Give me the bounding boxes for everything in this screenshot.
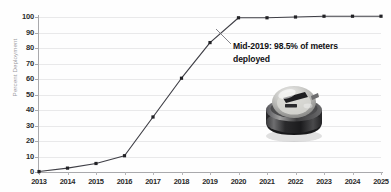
data-point-marker (265, 16, 268, 19)
electric-utility-meter-photo (256, 79, 332, 145)
data-point-marker (37, 170, 40, 173)
chart-container: Percent Deployment 010203040506070809010… (0, 0, 391, 192)
meter-glass-highlight-secondary (304, 104, 313, 109)
data-point-marker (123, 154, 126, 157)
data-point-marker (294, 15, 297, 18)
data-point-marker (151, 115, 154, 118)
data-point-marker (322, 15, 325, 18)
annotation-line-1: Mid-2019: 98.5% of meters (233, 40, 385, 53)
annotation-line-2: deployed (233, 53, 385, 66)
data-point-marker (94, 162, 97, 165)
data-point-marker (379, 15, 382, 18)
data-point-marker (66, 167, 69, 170)
meter-nameplate (285, 104, 297, 107)
data-point-marker (180, 77, 183, 80)
data-point-marker (351, 15, 354, 18)
annotation-callout: Mid-2019: 98.5% of meters deployed (233, 40, 385, 65)
data-series-layer (0, 0, 391, 192)
data-point-marker (237, 16, 240, 19)
data-point-marker (208, 41, 211, 44)
